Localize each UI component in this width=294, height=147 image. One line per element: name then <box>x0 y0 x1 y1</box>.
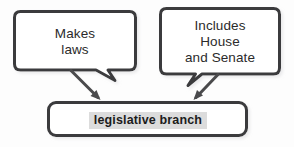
edge-makes-laws-to-branch <box>71 71 101 101</box>
node-legislative-branch <box>49 103 247 136</box>
node-makes-laws <box>15 12 136 81</box>
node-includes-house-senate <box>161 9 280 86</box>
diagram-canvas: Makes laws Includes House and Senate leg… <box>0 0 294 147</box>
diagram-vector-layer <box>0 0 294 147</box>
